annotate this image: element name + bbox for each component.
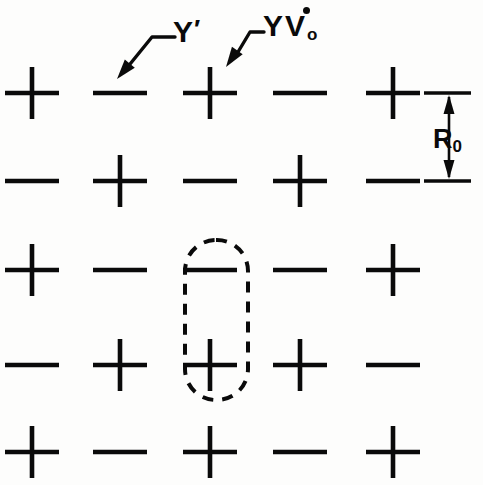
dimension-arrowhead-down <box>444 160 455 179</box>
label-y-prime: Y′ <box>173 16 201 47</box>
label-yv-subscript: o <box>307 25 317 44</box>
y-prime-leader <box>126 37 175 69</box>
label-r-zero: R0 <box>433 126 462 155</box>
prime-mark: ′ <box>194 14 201 44</box>
defect-cluster-outline <box>185 240 248 400</box>
label-yv-vacancy: YVo <box>263 11 317 43</box>
annotation-overlay <box>0 0 483 485</box>
label-r-subscript: 0 <box>453 137 462 156</box>
dimension-arrowhead-up <box>444 95 455 114</box>
label-y-prime-text: Y <box>173 15 194 48</box>
overdot-icon <box>303 7 310 14</box>
label-r-text: R <box>433 124 453 154</box>
lattice-diagram: Y′ YVo R0 <box>0 0 483 485</box>
label-yv-text: YV <box>263 9 307 42</box>
